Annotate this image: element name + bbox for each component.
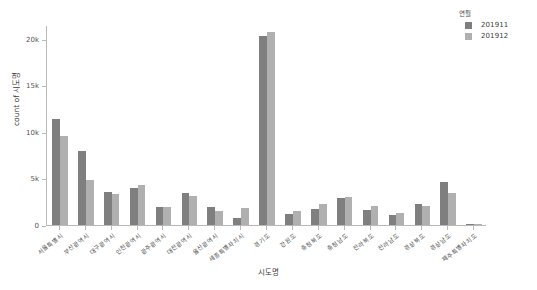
bar-group[interactable] bbox=[466, 26, 482, 225]
bar-group[interactable] bbox=[207, 26, 223, 225]
bar[interactable] bbox=[448, 193, 456, 225]
x-axis-tick bbox=[111, 226, 112, 230]
bar[interactable] bbox=[259, 36, 267, 225]
bar-group[interactable] bbox=[311, 26, 327, 225]
bar[interactable] bbox=[345, 197, 353, 225]
x-axis-tick bbox=[59, 226, 60, 230]
bar-group[interactable] bbox=[363, 26, 379, 225]
bar-group[interactable] bbox=[440, 26, 456, 225]
y-axis-tick-label: 10k bbox=[26, 129, 39, 137]
bar-group[interactable] bbox=[389, 26, 405, 225]
x-axis-tick bbox=[395, 226, 396, 230]
bar-group[interactable] bbox=[52, 26, 68, 225]
bar[interactable] bbox=[474, 224, 482, 225]
bar[interactable] bbox=[104, 192, 112, 225]
bar-group[interactable] bbox=[78, 26, 94, 225]
bar-group[interactable] bbox=[104, 26, 120, 225]
bar[interactable] bbox=[293, 211, 301, 225]
bar-group[interactable] bbox=[415, 26, 431, 225]
x-axis-tick bbox=[473, 226, 474, 230]
x-axis-tick bbox=[318, 226, 319, 230]
bar[interactable] bbox=[163, 207, 171, 226]
x-axis-tick bbox=[162, 226, 163, 230]
x-axis-tick bbox=[370, 226, 371, 230]
x-axis-tick bbox=[240, 226, 241, 230]
bar[interactable] bbox=[241, 208, 249, 225]
bar[interactable] bbox=[311, 209, 319, 225]
legend-title: 연월 bbox=[459, 8, 531, 18]
bar[interactable] bbox=[182, 193, 190, 225]
x-axis-tick bbox=[188, 226, 189, 230]
bar[interactable] bbox=[233, 218, 241, 225]
bar[interactable] bbox=[60, 136, 68, 225]
bar-chart: 연월 201911201912 count of 시도명 05k10k15k20… bbox=[0, 0, 537, 290]
bar[interactable] bbox=[285, 214, 293, 225]
bar[interactable] bbox=[440, 182, 448, 225]
bar[interactable] bbox=[415, 204, 423, 225]
bar[interactable] bbox=[78, 151, 86, 225]
x-axis-tick bbox=[266, 226, 267, 230]
bar[interactable] bbox=[112, 194, 120, 225]
bar[interactable] bbox=[337, 198, 345, 225]
x-axis-title: 시도명 bbox=[0, 266, 537, 277]
bar-group[interactable] bbox=[337, 26, 353, 225]
bar[interactable] bbox=[319, 204, 327, 225]
x-axis-tick bbox=[214, 226, 215, 230]
y-axis-tick-label: 20k bbox=[26, 36, 39, 44]
bar[interactable] bbox=[371, 206, 379, 225]
bar[interactable] bbox=[52, 119, 60, 225]
y-axis-tick: 20k bbox=[42, 40, 46, 41]
bar[interactable] bbox=[130, 188, 138, 225]
y-axis-tick: 0 bbox=[42, 226, 46, 227]
bar[interactable] bbox=[267, 32, 275, 225]
x-axis-tick bbox=[137, 226, 138, 230]
bar-series-container bbox=[47, 26, 486, 225]
bar[interactable] bbox=[207, 207, 215, 225]
x-axis-tick bbox=[421, 226, 422, 230]
bar[interactable] bbox=[138, 185, 146, 225]
bar[interactable] bbox=[363, 210, 371, 225]
bar-group[interactable] bbox=[182, 26, 198, 225]
bar[interactable] bbox=[466, 224, 474, 225]
bar[interactable] bbox=[86, 180, 94, 225]
y-axis-tick-label: 5k bbox=[30, 175, 39, 183]
bar[interactable] bbox=[215, 211, 223, 225]
bar-group[interactable] bbox=[285, 26, 301, 225]
x-axis-tick bbox=[344, 226, 345, 230]
y-axis-tick-label: 0 bbox=[35, 222, 39, 230]
bar[interactable] bbox=[389, 215, 397, 225]
y-axis-tick-label: 15k bbox=[26, 82, 39, 90]
bar[interactable] bbox=[422, 206, 430, 225]
x-axis-tick bbox=[292, 226, 293, 230]
bar-group[interactable] bbox=[259, 26, 275, 225]
plot-area: 05k10k15k20k bbox=[46, 26, 486, 226]
y-axis-tick: 10k bbox=[42, 133, 46, 134]
x-axis-tick bbox=[85, 226, 86, 230]
y-axis-title: count of 시도명 bbox=[10, 72, 21, 126]
bar[interactable] bbox=[156, 207, 164, 226]
bar-group[interactable] bbox=[233, 26, 249, 225]
y-axis-tick: 15k bbox=[42, 86, 46, 87]
bar[interactable] bbox=[396, 213, 404, 225]
x-axis-tick bbox=[447, 226, 448, 230]
bar-group[interactable] bbox=[130, 26, 146, 225]
bar[interactable] bbox=[189, 196, 197, 225]
bar-group[interactable] bbox=[156, 26, 172, 225]
y-axis-tick: 5k bbox=[42, 179, 46, 180]
